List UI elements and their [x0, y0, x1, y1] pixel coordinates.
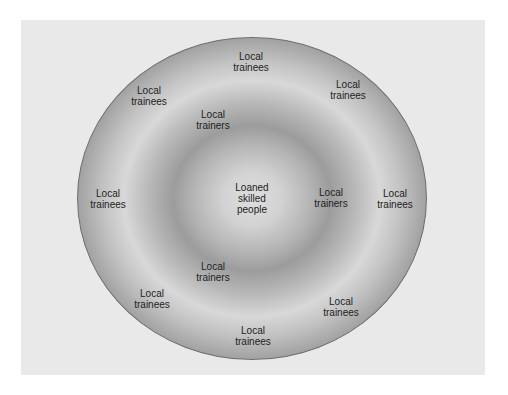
center-label: Loaned skilled people: [235, 182, 268, 215]
inner-ring-label: Local trainers: [314, 187, 347, 209]
outer-ring-label: Local trainees: [90, 188, 126, 210]
inner-ring-label: Local trainers: [196, 109, 229, 131]
inner-ring-label: Local trainers: [196, 261, 229, 283]
outer-ring-label: Local trainees: [233, 51, 269, 73]
outer-ring-label: Local trainees: [134, 288, 170, 310]
outer-ring-label: Local trainees: [323, 296, 359, 318]
outer-ring-label: Local trainees: [235, 325, 271, 347]
outer-ring-label: Local trainees: [330, 79, 366, 101]
outer-ring-label: Local trainees: [131, 85, 167, 107]
outer-ring-label: Local trainees: [377, 188, 413, 210]
